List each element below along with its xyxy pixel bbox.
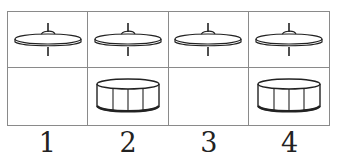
cymbal-cell-beat-1 [8, 12, 88, 68]
beat-label-1: 1 [7, 127, 88, 159]
drum-cell-beat-4 [249, 68, 329, 125]
cymbal-icon [254, 20, 324, 60]
cymbal-icon [13, 20, 83, 60]
beat-label-4: 4 [249, 127, 330, 159]
drum-icon [94, 77, 162, 117]
drum-icon [255, 77, 323, 117]
beat-label-2: 2 [88, 127, 169, 159]
beat-label-3: 3 [169, 127, 250, 159]
beat-grid [7, 11, 330, 126]
drum-cell-beat-3 [169, 68, 249, 125]
cymbal-icon [93, 20, 163, 60]
beat-labels: 1 2 3 4 [7, 127, 330, 159]
drum-cell-beat-2 [88, 68, 168, 125]
cymbal-icon [173, 20, 243, 60]
drum-cell-beat-1 [8, 68, 88, 125]
cymbal-cell-beat-3 [169, 12, 249, 68]
cymbal-cell-beat-4 [249, 12, 329, 68]
cymbal-cell-beat-2 [88, 12, 168, 68]
